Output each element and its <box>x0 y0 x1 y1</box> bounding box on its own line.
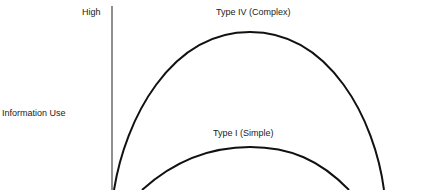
type-i-label: Type I (Simple) <box>213 128 274 138</box>
diagram-canvas <box>0 0 421 190</box>
y-axis-title: Information Use <box>2 108 66 118</box>
type-i-curve <box>142 147 349 190</box>
axis-high-label: High <box>82 7 101 17</box>
type-iv-label: Type IV (Complex) <box>216 7 291 17</box>
type-iv-curve <box>114 32 384 190</box>
